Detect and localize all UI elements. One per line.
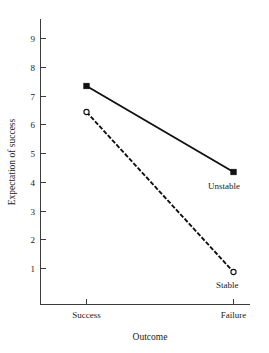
x-tick-label-success: Success: [72, 310, 101, 320]
series-unstable-point-success: [84, 83, 89, 88]
series-stable-point-success: [84, 109, 89, 114]
y-tick-label-9: 9: [31, 34, 36, 44]
series-unstable-line: [87, 86, 234, 172]
y-tick-label-3: 3: [31, 207, 36, 217]
chart-container: 9 8 7 6 5 4 3 2 1 Success Failure: [0, 0, 269, 353]
series-stable-label: Stable: [216, 280, 239, 290]
x-tick-label-failure: Failure: [221, 310, 247, 320]
y-tick-label-5: 5: [31, 149, 36, 159]
y-tick-label-2: 2: [31, 235, 36, 245]
x-tick-group: Success Failure: [72, 299, 246, 320]
y-axis-title: Expectation of success: [7, 118, 17, 205]
x-axis-title: Outcome: [133, 332, 168, 342]
line-chart: 9 8 7 6 5 4 3 2 1 Success Failure: [0, 0, 269, 353]
y-tick-label-8: 8: [31, 63, 36, 73]
series-unstable-label: Unstable: [208, 181, 240, 191]
series-unstable: Unstable: [84, 83, 240, 191]
y-tick-group: 9 8 7 6 5 4 3 2 1: [31, 34, 47, 274]
y-tick-label-4: 4: [31, 178, 36, 188]
series-stable-line: [87, 112, 234, 272]
y-tick-label-6: 6: [31, 120, 36, 130]
y-tick-label-7: 7: [31, 92, 36, 102]
y-tick-label-1: 1: [31, 264, 36, 274]
series-stable-point-failure: [231, 269, 236, 274]
series-unstable-point-failure: [231, 169, 236, 174]
axis-group: [40, 19, 250, 305]
series-stable: Stable: [84, 109, 239, 290]
